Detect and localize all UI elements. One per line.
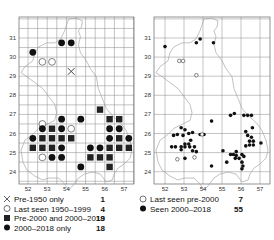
- legend-count: 7: [239, 195, 244, 204]
- record-dot: [183, 145, 187, 149]
- record-square: [39, 145, 45, 151]
- open-circle-icon: [140, 196, 146, 202]
- record-open-circle: [49, 58, 56, 65]
- x-tick-label: 52: [162, 186, 169, 192]
- record-dot: [244, 130, 248, 134]
- legend-label: 2000–2018 only: [14, 224, 71, 233]
- legend-item: 2000–2018 only18: [4, 224, 106, 233]
- y-tick-label: 28: [144, 92, 151, 98]
- record-dot: [210, 119, 214, 123]
- legend-right: Last seen pre-20007Seen 2000–201855: [140, 195, 244, 214]
- record-dot: [106, 135, 113, 142]
- x-tick-label: 53: [181, 186, 188, 192]
- map-frame: [19, 17, 134, 184]
- record-dot: [68, 39, 75, 46]
- record-dot: [58, 125, 65, 132]
- legend-label: Pre-2000 and 2000–2018: [14, 214, 105, 223]
- y-tick-label: 24: [9, 169, 16, 175]
- record-dot: [77, 116, 84, 123]
- x-tick-label: 52: [25, 186, 32, 192]
- record-dot: [195, 150, 199, 154]
- y-tick-label: 29: [9, 73, 16, 79]
- x-tick-label: 54: [63, 186, 70, 192]
- legend-left: Pre-1950 only1Last seen 1950–19994Pre-20…: [4, 195, 106, 233]
- record-dot: [221, 149, 225, 153]
- record-dot: [195, 41, 199, 45]
- record-dot: [229, 114, 233, 118]
- record-square: [126, 145, 132, 151]
- record-dot: [246, 134, 250, 138]
- record-square: [49, 135, 55, 141]
- record-square: [116, 135, 122, 141]
- record-dot: [237, 157, 241, 161]
- record-dot: [244, 144, 248, 148]
- dot-icon: [4, 225, 10, 231]
- y-tick-label: 26: [9, 131, 16, 137]
- record-open-circle: [195, 73, 199, 77]
- record-square: [49, 126, 55, 132]
- record-dot: [29, 49, 36, 56]
- record-dot: [170, 145, 174, 149]
- legend-item: Seen 2000–201855: [140, 205, 244, 214]
- record-square: [97, 154, 103, 160]
- record-square: [106, 145, 112, 151]
- x-tick-label: 54: [200, 186, 207, 192]
- record-dot: [250, 136, 254, 140]
- x-tick-label: 53: [44, 186, 51, 192]
- y-tick-label: 25: [9, 150, 16, 156]
- legend-count: 4: [101, 205, 106, 214]
- y-tick-label: 24: [144, 169, 151, 175]
- grid: [19, 17, 134, 184]
- record-dot: [179, 148, 183, 152]
- legend-count: 1: [101, 195, 106, 204]
- record-dot: [198, 37, 202, 41]
- y-tick-label: 30: [9, 54, 16, 60]
- record-square: [106, 154, 112, 160]
- record-square: [39, 135, 45, 141]
- record-open-circle: [200, 133, 204, 137]
- legend-label: Last seen 1950–1999: [14, 205, 92, 214]
- y-tick-label: 29: [144, 73, 151, 79]
- record-dot: [191, 131, 195, 135]
- y-tick-label: 26: [144, 131, 151, 137]
- record-dot: [97, 144, 104, 151]
- legend-count: 19: [96, 214, 105, 223]
- record-dot: [172, 134, 176, 138]
- x-tick-label: 57: [121, 186, 128, 192]
- record-dot: [187, 132, 191, 136]
- legend-label: Pre-1950 only: [14, 195, 64, 204]
- record-dot: [163, 45, 167, 49]
- legend-item: Pre-2000 and 2000–201819: [4, 214, 106, 223]
- map-right-records: 5253545556573130292827262524: [144, 17, 270, 192]
- record-dot: [77, 164, 84, 171]
- record-dot: [250, 114, 254, 118]
- record-cross: [68, 68, 75, 75]
- x-tick-label: 56: [238, 186, 245, 192]
- cross-icon: [4, 196, 10, 202]
- record-dot: [210, 164, 214, 168]
- record-dot: [259, 141, 263, 145]
- record-dot: [179, 126, 183, 130]
- record-dot: [234, 150, 238, 154]
- x-tick-label: 56: [101, 186, 108, 192]
- distribution-maps: 5253545556573130292827262524 52535455565…: [0, 0, 274, 240]
- record-dot: [242, 155, 246, 159]
- record-open-circle: [39, 154, 46, 161]
- record-dot: [251, 126, 255, 130]
- record-dot: [174, 145, 178, 149]
- legend-count: 18: [96, 224, 105, 233]
- record-dot: [191, 149, 195, 153]
- record-open-circle: [176, 157, 180, 161]
- record-dot: [58, 144, 65, 151]
- record-square: [87, 154, 93, 160]
- x-tick-label: 57: [257, 186, 264, 192]
- x-tick-label: 55: [82, 186, 89, 192]
- record-dot: [183, 128, 187, 132]
- record-square: [97, 106, 103, 112]
- record-dot: [225, 160, 229, 164]
- record-dot: [116, 125, 123, 132]
- record-square: [106, 116, 112, 122]
- record-dot: [29, 135, 36, 142]
- open-circle-icon: [4, 206, 10, 212]
- record-dot: [252, 139, 256, 143]
